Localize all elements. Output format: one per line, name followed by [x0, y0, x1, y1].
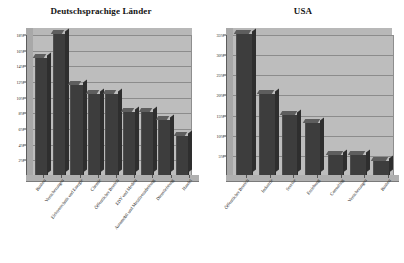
x-axis-label: Industrie — [260, 178, 274, 194]
bar-slot — [103, 35, 121, 175]
x-axis-label: Consulting — [329, 178, 345, 197]
y-axis-tick-mark — [23, 35, 26, 36]
y-axis-tick-mark — [23, 160, 26, 161]
bar-top-face — [173, 132, 187, 136]
bar-top-face — [156, 116, 170, 120]
x-axis-label: Service — [285, 178, 297, 192]
bar-top-face — [325, 151, 342, 155]
bar-top-face — [138, 108, 152, 112]
bar-slot — [33, 35, 51, 175]
bar-top-face — [348, 151, 365, 155]
charts-container: Deutschsprachige Länder 2%4%6%8%10%12%14… — [0, 0, 404, 263]
bar-side-face — [188, 130, 192, 172]
bar[interactable] — [373, 161, 390, 175]
x-axis-label: Automobil und Metallverarbeitung — [114, 178, 157, 230]
plot-depth-left-left — [26, 28, 33, 176]
bar[interactable] — [88, 94, 101, 175]
y-axis-tick-mark — [223, 35, 226, 36]
bar[interactable] — [236, 34, 253, 175]
x-axis-labels-right: Öffentlicher BereichIndustrieServiceErzi… — [226, 178, 400, 258]
bar-top-face — [371, 157, 388, 161]
plot-area-right: 5%10%15%20%25%30%35% — [226, 28, 394, 176]
x-axis-label: Banken — [380, 178, 392, 192]
x-axis-label: Dienstleistung — [155, 178, 175, 201]
bar-slot — [347, 35, 370, 175]
bar[interactable] — [105, 94, 118, 175]
chart-panel-usa: USA 5%10%15%20%25%30%35% Öffentlicher Be… — [202, 0, 404, 263]
bar[interactable] — [35, 58, 48, 176]
y-axis-tick-mark — [23, 82, 26, 83]
bar-slot — [279, 35, 302, 175]
y-axis-tick-mark — [223, 95, 226, 96]
y-axis-tick-mark — [223, 135, 226, 136]
bar-slot — [156, 35, 174, 175]
y-axis-tick-mark — [223, 155, 226, 156]
y-axis-tick-mark — [223, 55, 226, 56]
bar[interactable] — [141, 112, 154, 175]
bar[interactable] — [350, 155, 367, 175]
bar[interactable] — [70, 85, 83, 175]
y-axis-tick-mark — [223, 75, 226, 76]
chart-title-left: Deutschsprachige Länder — [0, 6, 202, 16]
bar[interactable] — [282, 115, 299, 175]
x-axis-label: Erziehung — [306, 178, 321, 196]
x-axis-label: Handel — [181, 178, 193, 191]
y-axis-tick-mark — [23, 144, 26, 145]
bar-slot — [324, 35, 347, 175]
bar-slot — [302, 35, 325, 175]
bar-top-face — [257, 90, 274, 94]
bar-slot — [370, 35, 393, 175]
y-axis-tick-mark — [23, 66, 26, 67]
y-axis-tick-mark — [223, 115, 226, 116]
bar[interactable] — [53, 34, 66, 175]
bar[interactable] — [328, 155, 345, 175]
plot-area-left: 2%4%6%8%10%12%14%16%18% — [26, 28, 192, 176]
y-axis-tick-mark — [23, 50, 26, 51]
x-axis-label: Öffentlicher Bereich — [223, 178, 250, 210]
chart-title-right: USA — [202, 6, 404, 16]
bar-top-face — [234, 30, 251, 34]
bar[interactable] — [176, 136, 189, 175]
bar-top-face — [86, 90, 100, 94]
bar-slot — [138, 35, 156, 175]
bar-series-left — [33, 35, 191, 175]
y-axis-tick-mark — [23, 97, 26, 98]
bar-slot — [68, 35, 86, 175]
bar-top-face — [103, 90, 117, 94]
bar-slot — [256, 35, 279, 175]
bar-slot — [174, 35, 192, 175]
x-axis-label: Versicherungen — [347, 178, 368, 203]
bar[interactable] — [123, 112, 136, 175]
bar-slot — [86, 35, 104, 175]
y-axis-tick-mark — [23, 113, 26, 114]
y-axis-left — [26, 35, 27, 176]
bar-series-right — [233, 35, 393, 175]
x-axis-labels-left: BankenVersicherungenElektrotechnik und E… — [26, 178, 198, 258]
plot-depth-left-right — [226, 28, 233, 176]
chart-panel-deutschsprachige-laender: Deutschsprachige Länder 2%4%6%8%10%12%14… — [0, 0, 202, 263]
bar[interactable] — [259, 94, 276, 175]
bar-top-face — [280, 111, 297, 115]
x-axis-label: Chemie — [89, 178, 102, 192]
bar[interactable] — [305, 123, 322, 175]
bar-top-face — [50, 30, 64, 34]
y-axis-right — [226, 35, 227, 176]
bar-side-face — [389, 155, 393, 172]
bar[interactable] — [158, 120, 171, 175]
bar-top-face — [33, 54, 47, 58]
y-axis-tick-mark — [23, 129, 26, 130]
bar-slot — [51, 35, 69, 175]
bar-slot — [233, 35, 256, 175]
bar-top-face — [302, 119, 319, 123]
bar-top-face — [121, 108, 135, 112]
bar-slot — [121, 35, 139, 175]
x-axis-label: Banken — [35, 178, 47, 192]
bar-top-face — [68, 81, 82, 85]
